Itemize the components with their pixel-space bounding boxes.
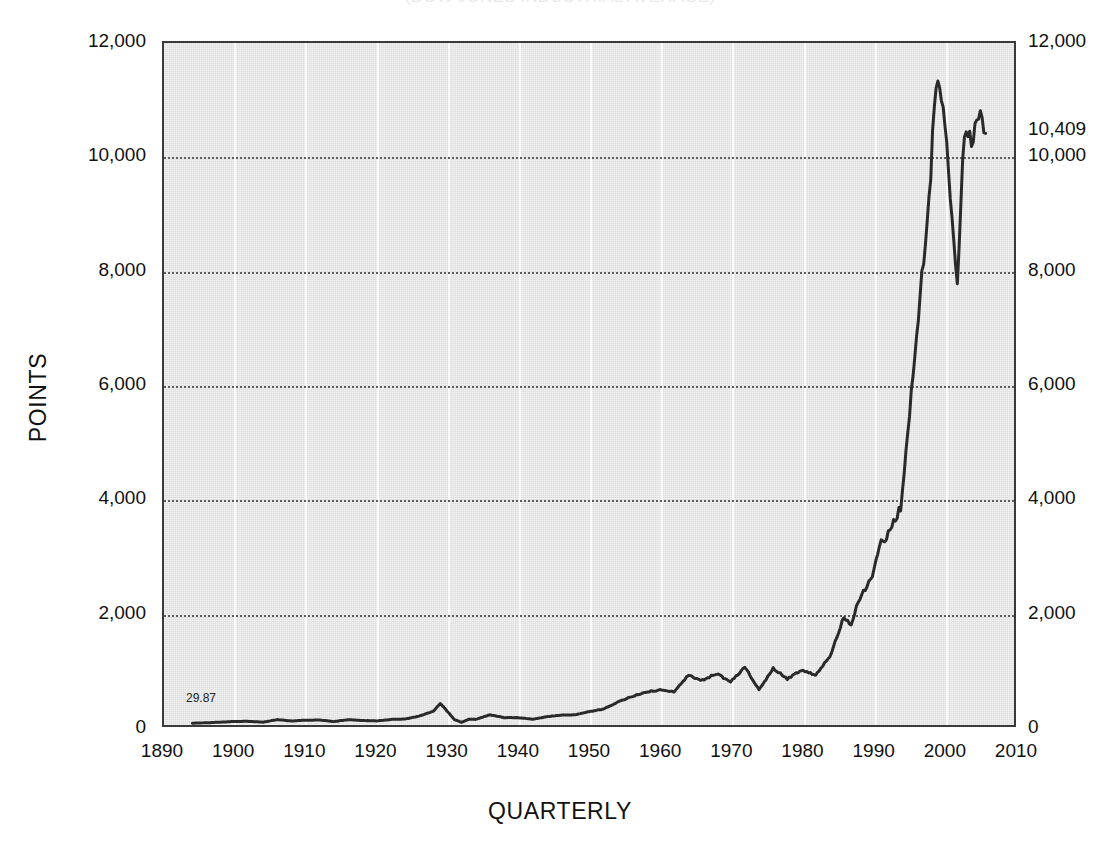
y-axis-final-value-callout: 10,409 <box>1028 118 1086 140</box>
y-tick-left-6000: 6,000 <box>98 373 146 395</box>
y-tick-left-0: 0 <box>135 716 146 738</box>
y-axis-title: POINTS <box>25 298 52 498</box>
data-series-line <box>164 43 1014 725</box>
y-tick-left-10000: 10,000 <box>88 144 146 166</box>
x-tick-1970: 1970 <box>710 740 752 762</box>
x-tick-1980: 1980 <box>781 740 823 762</box>
start-value-annotation: 29.87 <box>186 691 216 705</box>
y-tick-left-8000: 8,000 <box>98 259 146 281</box>
x-tick-1960: 1960 <box>639 740 681 762</box>
x-tick-1920: 1920 <box>354 740 396 762</box>
x-tick-1990: 1990 <box>853 740 895 762</box>
x-tick-1910: 1910 <box>283 740 325 762</box>
x-tick-1900: 1900 <box>212 740 254 762</box>
x-axis-title: QUARTERLY <box>0 798 1120 825</box>
y-tick-right-6000: 6,000 <box>1028 373 1076 395</box>
x-tick-1930: 1930 <box>426 740 468 762</box>
x-tick-2000: 2000 <box>924 740 966 762</box>
y-tick-right-2000: 2,000 <box>1028 602 1076 624</box>
y-tick-right-8000: 8,000 <box>1028 259 1076 281</box>
chart-root: (DOW JONES INDUSTRIAL AVERAGE) 02,0004,0… <box>0 0 1120 847</box>
series-path-dow-jones <box>192 81 985 723</box>
y-tick-right-0: 0 <box>1028 716 1039 738</box>
y-tick-left-4000: 4,000 <box>98 487 146 509</box>
x-tick-1890: 1890 <box>141 740 183 762</box>
y-tick-right-4000: 4,000 <box>1028 487 1076 509</box>
x-tick-2010: 2010 <box>995 740 1037 762</box>
x-tick-1940: 1940 <box>497 740 539 762</box>
y-tick-left-12000: 12,000 <box>88 30 146 52</box>
y-tick-right-12000: 12,000 <box>1028 30 1086 52</box>
plot-area: 29.87 <box>162 41 1016 727</box>
x-tick-1950: 1950 <box>568 740 610 762</box>
y-tick-right-10000: 10,000 <box>1028 144 1086 166</box>
chart-title: (DOW JONES INDUSTRIAL AVERAGE) <box>0 0 1120 7</box>
y-tick-left-2000: 2,000 <box>98 602 146 624</box>
